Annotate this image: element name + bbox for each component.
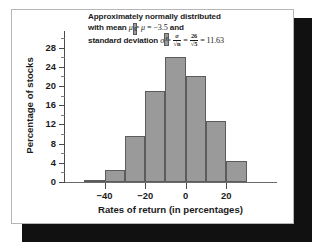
annotation-line-1: Approximately normally distributed [88, 12, 288, 23]
y-tick [59, 124, 65, 125]
y-tick-minor [61, 76, 65, 77]
histogram-bar [206, 121, 226, 182]
histogram-bar [145, 91, 165, 182]
fraction2-numerator: 26 [190, 33, 199, 40]
y-tick [59, 48, 65, 49]
x-tick-label: 20 [211, 190, 241, 201]
x-axis-line [64, 182, 277, 183]
x-tick [105, 183, 106, 189]
annotation-line-3: standard deviation σx̄ = σ√n = 26√5 = 11… [88, 33, 288, 48]
x-tick [226, 183, 227, 189]
annotation-line2-pre: with mean [88, 23, 129, 32]
fraction-26-over-sqrt-5: 26√5 [190, 33, 199, 48]
annotation-line3-pre: standard deviation [88, 36, 160, 45]
y-axis-title: Percentage of stocks [24, 31, 35, 181]
y-tick [59, 86, 65, 87]
annotation-eq-4: = [181, 36, 189, 45]
histogram-bar [125, 136, 145, 182]
y-tick-minor [61, 57, 65, 58]
y-axis-line [64, 31, 65, 183]
y-tick [59, 182, 65, 183]
y-tick-minor [61, 96, 65, 97]
chart-annotation: Approximately normally distributed with … [88, 12, 288, 48]
y-tick-minor [61, 134, 65, 135]
histogram-bar [186, 76, 206, 182]
y-tick [59, 67, 65, 68]
y-tick [59, 105, 65, 106]
fraction2-denominator: √5 [190, 40, 199, 48]
sd-value: 11.63 [207, 36, 224, 45]
annotation-line-2: with mean μx̄ = μ = −3.5 and [88, 23, 288, 34]
histogram-bar [105, 170, 125, 182]
histogram-bar [226, 161, 246, 182]
annotation-line2-post: and [168, 23, 184, 32]
y-tick-minor [61, 172, 65, 173]
x-tick [145, 183, 146, 189]
figure-container: Approximately normally distributed with … [0, 0, 312, 242]
x-tick-label: 0 [171, 190, 201, 201]
x-tick [186, 183, 187, 189]
x-tick-label: −20 [130, 190, 160, 201]
mean-value: −3.5 [153, 23, 167, 32]
y-tick [59, 163, 65, 164]
x-tick-label: −40 [90, 190, 120, 201]
y-tick-minor [61, 153, 65, 154]
y-tick-minor [61, 115, 65, 116]
x-axis-title: Rates of return (in percentages) [64, 204, 277, 215]
y-tick [59, 144, 65, 145]
annotation-eq-5: = [198, 36, 206, 45]
mu-xbar-symbol: μx̄ [129, 23, 133, 32]
plot-area: Approximately normally distributed with … [0, 0, 312, 242]
sigma-xbar-symbol: σx̄ [160, 36, 164, 45]
histogram-bar [165, 57, 185, 182]
y-tick-minor [61, 38, 65, 39]
